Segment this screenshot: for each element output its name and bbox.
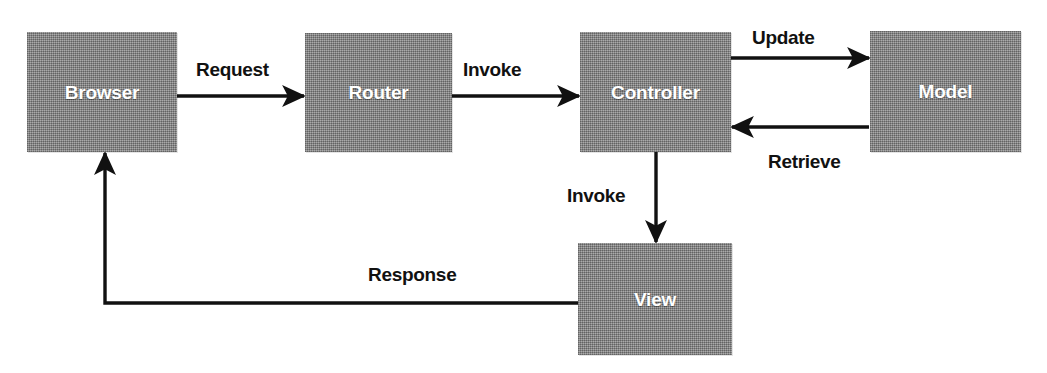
edge-label-response: Response: [368, 265, 456, 284]
node-browser[interactable]: Browser: [27, 32, 177, 152]
node-model[interactable]: Model: [870, 31, 1021, 152]
edge-label-update: Update: [752, 28, 815, 47]
edge-label-invoke-controller-view: Invoke: [567, 186, 625, 205]
node-model-label: Model: [919, 82, 973, 101]
node-router[interactable]: Router: [305, 33, 452, 152]
node-controller-label: Controller: [611, 83, 700, 102]
edge-label-request: Request: [196, 60, 269, 79]
node-browser-label: Browser: [65, 83, 140, 102]
edge-label-invoke-router-controller: Invoke: [463, 60, 521, 79]
node-controller[interactable]: Controller: [580, 32, 731, 152]
edge-label-retrieve: Retrieve: [768, 152, 841, 171]
connector-view-to-browser: [105, 153, 578, 303]
mvc-flow-diagram: Browser Router Controller Model View Req…: [0, 0, 1047, 373]
node-view[interactable]: View: [578, 243, 732, 355]
node-view-label: View: [634, 290, 676, 309]
node-router-label: Router: [348, 83, 408, 102]
